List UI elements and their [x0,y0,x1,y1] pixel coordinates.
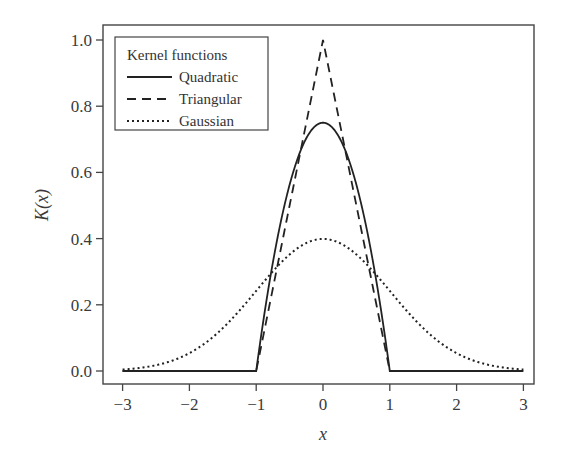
series-gaussian-line [123,239,524,370]
legend-label-triangular: Triangular [179,91,242,107]
series-quadratic-line [123,123,524,371]
x-tick-label: 3 [519,395,528,414]
legend: Kernel functions QuadraticTriangularGaus… [115,37,268,130]
y-tick-label: 0.8 [71,97,92,116]
x-tick-label: −3 [114,395,132,414]
x-axis: −3−2−10123 [114,384,528,414]
y-axis: 0.00.20.40.60.81.0 [71,31,103,381]
x-tick-label: 1 [386,395,395,414]
legend-title: Kernel functions [127,47,228,63]
y-tick-label: 0.4 [71,230,93,249]
legend-label-gaussian: Gaussian [179,113,234,129]
legend-label-quadratic: Quadratic [179,69,238,85]
kernel-functions-chart: −3−2−10123 0.00.20.40.60.81.0 x K(x) Ker… [0,0,564,464]
y-tick-label: 0.2 [71,296,92,315]
y-tick-label: 1.0 [71,31,92,50]
x-tick-label: 0 [319,395,328,414]
y-tick-label: 0.6 [71,163,92,182]
x-tick-label: 2 [452,395,461,414]
x-tick-label: −1 [247,395,265,414]
x-axis-title: x [318,424,327,444]
x-tick-label: −2 [180,395,198,414]
y-axis-title: K(x) [32,189,53,222]
y-tick-label: 0.0 [71,362,92,381]
